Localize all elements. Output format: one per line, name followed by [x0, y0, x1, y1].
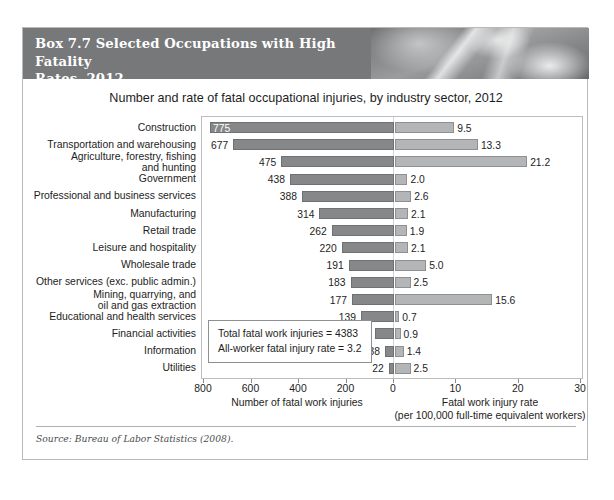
axis-tick-label-left: 600	[242, 383, 259, 394]
value-label-number: 475	[259, 156, 276, 167]
category-label: Agriculture, forestry, fishing and hunti…	[0, 150, 196, 173]
category-label: Other services (exc. public admin.)	[0, 277, 196, 288]
value-label-number: 314	[297, 208, 314, 219]
bar-number-of-injuries	[290, 174, 394, 185]
header-photo-image	[371, 28, 589, 79]
value-label-rate: 2.1	[411, 208, 425, 219]
value-label-number: 183	[328, 277, 345, 288]
category-label: Mining, quarrying, and oil and gas extra…	[0, 288, 196, 311]
bar-injury-rate	[395, 311, 399, 322]
value-label-rate: 2.6	[414, 191, 428, 202]
chart-row: Transportation and warehousing67713.3	[202, 138, 582, 151]
bar-injury-rate	[395, 346, 404, 357]
category-label: Financial activities	[0, 328, 196, 339]
callout-line-total: Total fatal work injuries = 4383	[218, 326, 362, 341]
chart-row: Professional and business services3882.6	[202, 190, 582, 203]
bar-injury-rate	[395, 156, 527, 167]
value-label-rate: 2.1	[411, 242, 425, 253]
bar-injury-rate	[395, 328, 401, 339]
bar-number-of-injuries	[302, 191, 394, 202]
category-label: Construction	[0, 122, 196, 133]
chart-row: Leisure and hospitality2202.1	[202, 241, 582, 254]
category-label: Utilities	[0, 363, 196, 374]
chart-title: Number and rate of fatal occupational in…	[23, 91, 589, 105]
category-label: Manufacturing	[0, 208, 196, 219]
chart-row: Other services (exc. public admin.)1832.…	[202, 276, 582, 289]
box-title: Box 7.7 Selected Occupations with High F…	[35, 35, 385, 79]
category-label: Transportation and warehousing	[0, 139, 196, 150]
x-axis-ticks: 8006004002000102030	[201, 379, 583, 393]
value-label-rate: 1.4	[407, 346, 421, 357]
bar-injury-rate	[395, 122, 454, 133]
summary-callout: Total fatal work injuries = 4383 All-wor…	[208, 320, 372, 363]
bar-injury-rate	[395, 260, 426, 271]
category-label: Wholesale trade	[0, 259, 196, 270]
category-label: Information	[0, 345, 196, 356]
bar-injury-rate	[395, 208, 408, 219]
source-divider	[36, 426, 576, 427]
bar-number-of-injuries	[210, 122, 394, 133]
bar-injury-rate	[395, 363, 411, 374]
value-label-number: 775	[213, 122, 230, 133]
bar-number-of-injuries	[233, 139, 394, 150]
bar-injury-rate	[395, 294, 492, 305]
bar-number-of-injuries	[342, 242, 394, 253]
bar-number-of-injuries	[332, 225, 394, 236]
axis-tick-label-right: 30	[574, 383, 586, 394]
value-label-number: 191	[326, 260, 343, 271]
bar-number-of-injuries	[389, 363, 394, 374]
chart-row: Government4382.0	[202, 173, 582, 186]
bar-number-of-injuries	[281, 156, 394, 167]
bar-number-of-injuries	[352, 294, 394, 305]
chart-row: Mining, quarrying, and oil and gas extra…	[202, 293, 582, 306]
axis-tick-label-left: 400	[289, 383, 306, 394]
source-note: Source: Bureau of Labor Statistics (2008…	[36, 433, 233, 444]
value-label-number: 177	[330, 294, 347, 305]
category-label: Educational and health services	[0, 311, 196, 322]
category-label: Professional and business services	[0, 191, 196, 202]
box-header-banner: Box 7.7 Selected Occupations with High F…	[23, 28, 589, 79]
figure-box: Box 7.7 Selected Occupations with High F…	[22, 27, 588, 460]
chart-plot-area: Construction7759.5Transportation and war…	[201, 116, 583, 379]
bar-injury-rate	[395, 139, 478, 150]
bar-number-of-injuries	[385, 346, 394, 357]
value-label-rate: 13.3	[481, 139, 501, 150]
axis-tick-label-right: 20	[512, 383, 524, 394]
bar-injury-rate	[395, 191, 411, 202]
bar-injury-rate	[395, 277, 411, 288]
value-label-number: 677	[211, 139, 228, 150]
value-label-number: 22	[372, 363, 383, 374]
chart-row: Agriculture, forestry, fishing and hunti…	[202, 155, 582, 168]
chart-row: Wholesale trade1915.0	[202, 259, 582, 272]
value-label-rate: 0.7	[402, 311, 416, 322]
chart-row: Utilities222.5	[202, 362, 582, 375]
bar-number-of-injuries	[349, 260, 394, 271]
value-label-rate: 2.0	[410, 174, 424, 185]
value-label-rate: 2.5	[414, 277, 428, 288]
axis-tick-label-right: 10	[450, 383, 462, 394]
x-axis-label-left: Number of fatal work injuries	[201, 397, 393, 410]
bar-number-of-injuries	[351, 277, 394, 288]
value-label-rate: 15.6	[495, 294, 515, 305]
value-label-number: 388	[280, 191, 297, 202]
value-label-rate: 0.9	[404, 328, 418, 339]
x-axis-label-right: Fatal work injury rate (per 100,000 full…	[393, 397, 587, 422]
callout-line-rate: All-worker fatal injury rate = 3.2	[218, 341, 362, 356]
bar-number-of-injuries	[375, 328, 394, 339]
value-label-rate: 21.2	[530, 156, 550, 167]
value-label-number: 220	[320, 242, 337, 253]
category-label: Leisure and hospitality	[0, 242, 196, 253]
bar-injury-rate	[395, 242, 408, 253]
bar-injury-rate	[395, 174, 407, 185]
value-label-rate: 2.5	[414, 363, 428, 374]
axis-tick-label-left: 0	[390, 383, 396, 394]
category-label: Government	[0, 173, 196, 184]
bar-injury-rate	[395, 225, 407, 236]
category-label: Retail trade	[0, 225, 196, 236]
chart-row: Construction7759.5	[202, 121, 582, 134]
value-label-rate: 9.5	[457, 122, 471, 133]
axis-tick-label-left: 800	[194, 383, 211, 394]
value-label-rate: 1.9	[410, 225, 424, 236]
value-label-number: 438	[268, 174, 285, 185]
bar-number-of-injuries	[319, 208, 394, 219]
